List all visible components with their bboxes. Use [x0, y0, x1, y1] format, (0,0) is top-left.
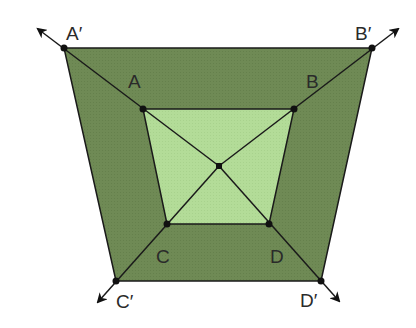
label-A: A — [128, 71, 141, 92]
label-D-prime: D′ — [300, 290, 318, 311]
point-A-prime — [61, 45, 68, 52]
point-B-prime — [369, 45, 376, 52]
label-B: B — [306, 71, 319, 92]
point-A — [140, 106, 147, 113]
point-C-prime — [113, 278, 120, 285]
point-C — [164, 221, 171, 228]
point-D — [266, 221, 273, 228]
point-D-prime — [318, 278, 325, 285]
diagram-canvas: A′ B′ A B C D C′ D′ — [0, 0, 416, 328]
center-point — [216, 163, 222, 169]
label-B-prime: B′ — [355, 23, 372, 44]
label-D: D — [270, 246, 284, 267]
dilation-diagram: A′ B′ A B C D C′ D′ — [0, 0, 416, 328]
label-C-prime: C′ — [116, 291, 134, 312]
label-C: C — [156, 246, 170, 267]
point-B — [291, 106, 298, 113]
label-A-prime: A′ — [66, 23, 83, 44]
